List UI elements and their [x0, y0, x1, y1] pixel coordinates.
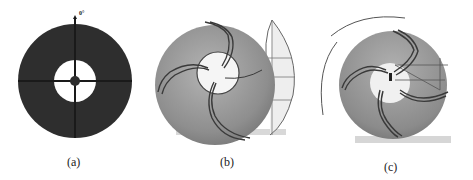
axis-arrow-icon	[73, 15, 77, 19]
caption-b: (b)	[220, 155, 234, 170]
angle-label-0deg: 0°	[79, 10, 84, 16]
panel-c	[321, 17, 451, 143]
caption-a: (a)	[67, 155, 80, 170]
caption-c: (c)	[384, 160, 397, 175]
center-hub	[70, 76, 80, 86]
panel-a	[18, 15, 132, 138]
hub-marker	[389, 73, 392, 81]
panel-b	[155, 20, 295, 145]
figure-canvas	[0, 0, 473, 180]
center-hole	[197, 52, 239, 94]
